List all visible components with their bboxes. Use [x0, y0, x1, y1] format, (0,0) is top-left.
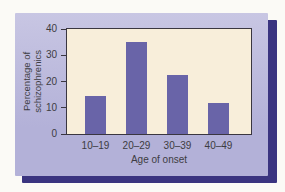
bar-30–39: [167, 75, 188, 134]
y-tick-mark-10: [61, 107, 66, 108]
y-tick-label-20: 20: [35, 77, 57, 87]
scanned-textbook-figure: Percentage of schizophrenics 10–1920–293…: [0, 0, 285, 192]
bar-10–19: [85, 96, 106, 134]
x-tick-label-20–29: 20–29: [123, 140, 151, 151]
y-axis-title-line1: Percentage of: [21, 50, 32, 113]
y-tick-label-40: 40: [35, 24, 57, 34]
x-tick-label-30–39: 30–39: [164, 140, 192, 151]
y-tick-mark-20: [61, 81, 66, 82]
y-tick-label-10: 10: [35, 103, 57, 113]
x-axis-title: Age of onset: [131, 154, 187, 165]
y-tick-label-30: 30: [35, 50, 57, 60]
x-tick-label-10–19: 10–19: [82, 140, 110, 151]
y-tick-mark-30: [61, 55, 66, 56]
plot-area: [66, 28, 252, 135]
y-tick-label-0: 0: [35, 129, 57, 139]
bar-40–49: [208, 103, 229, 135]
y-tick-mark-0: [61, 134, 66, 135]
chart-panel: Percentage of schizophrenics 10–1920–293…: [15, 13, 268, 176]
bar-20–29: [126, 42, 147, 134]
x-tick-label-40–49: 40–49: [205, 140, 233, 151]
y-tick-mark-40: [61, 29, 66, 30]
